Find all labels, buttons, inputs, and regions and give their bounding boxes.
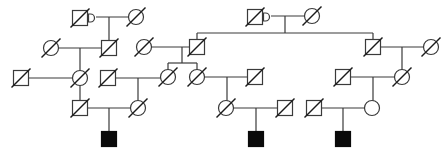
deceased-female-symbol [303, 7, 322, 26]
deceased-female-symbol [71, 69, 90, 88]
deceased-female-symbol [129, 99, 148, 118]
deceased-female-symbol [188, 68, 207, 87]
d-shape-marker-icon [264, 13, 270, 21]
deceased-male-symbol [276, 99, 295, 118]
deceased-female-symbol [159, 68, 178, 87]
deceased-male-symbol [188, 38, 207, 57]
unaffected-female-symbol [365, 101, 380, 116]
deceased-male-symbol [364, 38, 383, 57]
deceased-female-symbol [422, 38, 441, 57]
deceased-male-symbol [71, 9, 95, 28]
pedigree-diagram [0, 0, 448, 154]
affected-male-symbol [336, 132, 351, 147]
affected-male-symbol [102, 132, 117, 147]
deceased-female-symbol [135, 38, 154, 57]
deceased-male-symbol [99, 69, 118, 88]
square-icon [102, 132, 117, 147]
deceased-male-symbol [246, 8, 270, 27]
deceased-male-symbol [71, 99, 90, 118]
deceased-male-symbol [334, 68, 353, 87]
deceased-male-symbol [12, 69, 31, 88]
deceased-male-symbol [100, 39, 119, 58]
deceased-male-symbol [246, 68, 265, 87]
deceased-female-symbol [217, 99, 236, 118]
square-icon [336, 132, 351, 147]
d-shape-marker-icon [89, 14, 95, 22]
deceased-male-symbol [305, 99, 324, 118]
deceased-female-symbol [42, 39, 61, 58]
circle-icon [365, 101, 380, 116]
deceased-female-symbol [127, 8, 146, 27]
square-icon [249, 132, 264, 147]
affected-male-symbol [249, 132, 264, 147]
deceased-female-symbol [393, 68, 412, 87]
